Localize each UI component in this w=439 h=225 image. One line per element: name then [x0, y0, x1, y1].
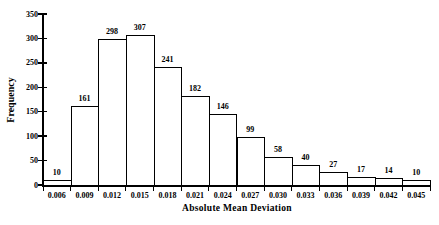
y-axis-tick-label: 350 — [0, 10, 38, 19]
bar — [71, 106, 100, 186]
y-axis-tick-label: 0 — [0, 181, 38, 190]
y-axis-tick — [38, 62, 47, 64]
x-axis-tick — [153, 185, 154, 191]
x-axis-tick — [181, 185, 182, 191]
bar-value-label: 241 — [151, 55, 185, 64]
bar-value-label: 182 — [178, 84, 212, 93]
y-axis-tick-label: 300 — [0, 34, 38, 43]
x-axis-tick — [98, 185, 99, 191]
y-axis-tick-label: 100 — [0, 132, 38, 141]
y-axis-tick-label: 150 — [0, 107, 38, 116]
bar-value-label: 10 — [40, 168, 74, 177]
bar-value-label: 146 — [206, 102, 240, 111]
x-axis-tick — [291, 185, 292, 191]
bar-value-label: 10 — [399, 168, 433, 177]
bar — [402, 180, 431, 186]
x-axis-tick — [125, 185, 126, 191]
x-axis-tick — [374, 185, 375, 191]
y-axis-tick — [38, 38, 47, 40]
y-axis-tick-label: 250 — [0, 58, 38, 67]
y-axis-tick-label: 200 — [0, 83, 38, 92]
bar — [98, 39, 127, 186]
y-axis-tick — [38, 160, 47, 162]
y-axis-tick-label: 50 — [0, 156, 38, 165]
x-axis-tick — [236, 185, 237, 191]
y-axis-tick — [38, 111, 47, 113]
bar-value-label: 58 — [261, 145, 295, 154]
bar-value-label: 161 — [68, 94, 102, 103]
x-axis-tick — [319, 185, 320, 191]
x-axis-title: Absolute Mean Deviation — [43, 203, 431, 213]
y-axis-tick — [38, 135, 47, 137]
y-axis-tick — [38, 87, 47, 89]
y-axis-tick — [38, 13, 47, 15]
x-axis-tick — [264, 185, 265, 191]
bar-value-label: 99 — [234, 125, 268, 134]
x-axis-tick — [70, 185, 71, 191]
x-axis-tick — [347, 185, 348, 191]
x-axis-tick — [208, 185, 209, 191]
x-axis-tick-label: 0.045 — [399, 191, 433, 200]
x-axis-tick — [430, 185, 431, 191]
bar — [375, 178, 404, 186]
bar-value-label: 307 — [123, 23, 157, 32]
bar — [43, 180, 72, 186]
bar — [319, 172, 348, 186]
bar — [347, 177, 376, 186]
x-axis-tick — [402, 185, 403, 191]
histogram-chart: Frequency 050100150200250300350100.00616… — [0, 0, 439, 225]
x-axis-tick — [43, 185, 44, 191]
